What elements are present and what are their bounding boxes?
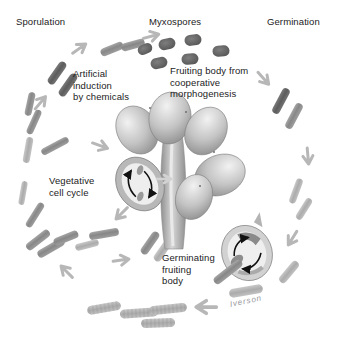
striated-swarm-cells [86, 301, 187, 328]
rod-cell [24, 92, 36, 117]
myxobacteria-lifecycle-diagram: Sporulation Myxospores Germination Artif… [0, 0, 346, 343]
myxospore-cell [158, 37, 177, 51]
label-germination: Germination [267, 16, 320, 28]
label-germinating-fruiting-body: Germinating fruiting body [162, 252, 215, 287]
rod-cell [40, 136, 70, 156]
cycle-arrow [284, 229, 301, 248]
rod-cell [278, 259, 301, 284]
striated-cell-texture [141, 318, 175, 328]
myxospore-cell [184, 33, 202, 46]
lifecycle-illustration [0, 0, 346, 343]
rod-cell [89, 227, 120, 240]
label-myxospores: Myxospores [149, 16, 201, 28]
rod-cell [284, 102, 304, 130]
rod-cell [295, 197, 314, 221]
rod-cell [288, 178, 303, 205]
label-artificial-induction: Artificial induction by chemicals [73, 68, 129, 103]
myxospore-cell [150, 56, 169, 70]
rod-cell [75, 239, 100, 252]
rod-cell [18, 181, 28, 206]
rod-cell [271, 87, 291, 115]
cycle-arrow [70, 40, 89, 57]
cycle-arrow [113, 204, 131, 222]
label-fruiting-body: Fruiting body from cooperative morphogen… [170, 65, 248, 100]
rod-cell [52, 229, 79, 246]
cycle-arrow [91, 138, 109, 153]
spore-dot [185, 111, 187, 113]
germinating-fruiting-body-illustration [211, 212, 282, 288]
fruiting-body [106, 89, 252, 249]
striated-cell-texture [86, 301, 121, 316]
rod-cell [22, 137, 33, 164]
rod-cell [25, 201, 46, 228]
spore-dot [213, 151, 215, 153]
cycle-arrow [58, 263, 76, 281]
cycle-arrow [112, 254, 129, 266]
spore-dot [149, 107, 151, 109]
label-vegetative-cell-cycle: Vegetative cell cycle [49, 175, 94, 198]
label-sporulation: Sporulation [16, 16, 65, 28]
rod-cell [99, 41, 124, 57]
cycle-arrow [196, 301, 216, 314]
myxospore-cell [212, 45, 230, 57]
spore-dot [199, 185, 201, 187]
myxospore-cell [181, 53, 199, 66]
cycle-arrow [302, 148, 313, 165]
rod-cell [46, 60, 67, 86]
striated-cell-texture [149, 303, 188, 316]
cycle-arrow [142, 29, 160, 43]
cycle-arrow [254, 69, 272, 88]
